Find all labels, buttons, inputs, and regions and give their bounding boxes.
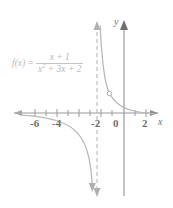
curve-right-branch	[100, 26, 155, 114]
vertical-asymptote	[94, 21, 101, 197]
x-tick-label-neg2: -2	[91, 118, 100, 129]
x-tick-label-0: 0	[113, 118, 119, 129]
x-tick-label-2: 2	[142, 118, 148, 129]
formula-denominator: x2 + 3x + 2	[36, 63, 84, 75]
function-formula: f(x) = x + 1 x2 + 3x + 2	[12, 53, 83, 74]
hole-open-circle	[107, 91, 112, 96]
x-axis-arrow-left	[14, 110, 22, 116]
asymptote-arrow-down	[94, 188, 101, 197]
x-tick-label-neg4: -4	[52, 118, 61, 129]
formula-fraction: x + 1 x2 + 3x + 2	[36, 53, 84, 74]
graph-canvas	[0, 0, 173, 208]
formula-denominator-rest: + 3x + 2	[45, 64, 81, 74]
x-axis-label: x	[158, 117, 162, 127]
function-graph-figure: -6 -4 -2 0 2 x y f(x) = x + 1 x2 + 3x + …	[0, 0, 173, 208]
y-axis-arrow-up	[120, 20, 128, 30]
formula-numerator: x + 1	[47, 53, 73, 63]
x-tick-label-neg6: -6	[30, 118, 39, 129]
formula-lhs: f(x) =	[12, 59, 34, 69]
asymptote-arrow-up	[94, 21, 101, 30]
y-axis-label: y	[114, 17, 118, 27]
